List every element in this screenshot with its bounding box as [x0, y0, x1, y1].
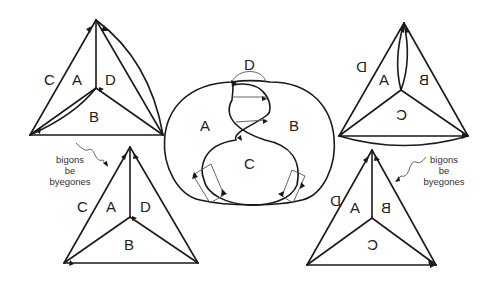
diagram-canvas: C A D B D A B C D	[0, 0, 492, 284]
region-label-a: A	[106, 198, 116, 215]
triangle-top-left: C A D B	[30, 20, 163, 135]
arrow-head	[374, 155, 380, 161]
edge	[64, 217, 130, 263]
edge	[404, 23, 468, 136]
arrow-head	[363, 156, 369, 163]
inner-loop	[202, 84, 298, 205]
edge	[339, 23, 404, 136]
edge	[307, 218, 372, 265]
edge	[30, 88, 96, 135]
region-label-d: D	[356, 58, 367, 75]
annotation-left: bigons be byegones	[49, 143, 108, 187]
annotation-line-2: be	[65, 165, 76, 176]
region-label-a: A	[72, 71, 82, 88]
triangle-bottom-left: C A D B	[64, 147, 198, 266]
left-quad	[193, 164, 224, 203]
arrow-head	[133, 153, 139, 159]
edge	[372, 218, 436, 265]
outer-loop	[164, 81, 334, 205]
arrow-head	[121, 153, 127, 160]
triangle-bottom-right: D A B C	[307, 150, 436, 268]
annotation-line-1: bigons	[56, 154, 84, 165]
annotation-line-3: byegones	[423, 176, 464, 187]
region-label-c: C	[367, 236, 378, 253]
arrow-head	[278, 191, 284, 197]
region-label-b: B	[419, 71, 429, 88]
edge	[130, 217, 198, 263]
edge	[401, 90, 468, 136]
squiggle-arrow	[397, 157, 426, 180]
arrow-head	[300, 182, 305, 189]
arrow-head	[395, 176, 400, 182]
annotation-line-1: bigons	[430, 154, 458, 165]
triangle-top-right: D A B C	[339, 23, 468, 146]
region-label-d: D	[244, 56, 255, 73]
arrow-head	[237, 135, 242, 141]
region-label-c: C	[44, 71, 55, 88]
region-label-d: D	[330, 192, 341, 209]
region-label-d: D	[105, 71, 116, 88]
region-label-b: B	[289, 117, 299, 134]
region-label-b: B	[124, 236, 134, 253]
arrow-head	[221, 189, 227, 196]
region-label-c: C	[77, 198, 88, 215]
region-label-b: B	[381, 199, 391, 216]
region-label-a: A	[200, 117, 210, 134]
annotation-line-2: be	[439, 165, 450, 176]
region-label-b: B	[89, 108, 99, 125]
region-label-c: C	[244, 155, 255, 172]
annotation-line-3: byegones	[49, 176, 90, 187]
annotation-right: bigons be byegones	[395, 154, 465, 187]
region-label-d: D	[140, 198, 151, 215]
center-surface-diagram: D A B C	[164, 56, 334, 205]
region-label-c: C	[396, 106, 407, 123]
edge	[339, 136, 468, 146]
rung	[236, 120, 266, 122]
edge	[339, 90, 401, 136]
region-label-a: A	[350, 199, 360, 216]
region-label-a: A	[379, 71, 389, 88]
